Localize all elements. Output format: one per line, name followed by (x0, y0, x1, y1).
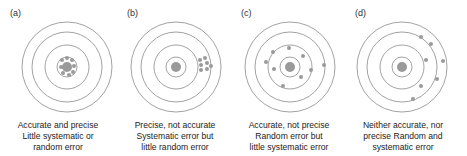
hit-dot (301, 54, 305, 58)
hit-dot (287, 46, 291, 50)
target-b (131, 22, 221, 112)
hit-dot (272, 67, 276, 71)
hit-dot (435, 77, 439, 81)
bullseye (397, 62, 407, 72)
hit-dot (61, 71, 65, 75)
bullseye (62, 62, 72, 72)
hit-dot (209, 64, 213, 68)
hit-dot (199, 68, 203, 72)
hit-dot (411, 97, 415, 101)
target-d (357, 22, 447, 112)
hit-dot (424, 58, 428, 62)
targets-canvas (0, 0, 467, 156)
hit-dot (65, 56, 69, 60)
hit-dot (419, 84, 423, 88)
hit-dot (271, 50, 275, 54)
hit-dot (198, 58, 202, 62)
hit-dot (309, 68, 313, 72)
hit-dot (322, 63, 326, 67)
bullseye (285, 62, 295, 72)
hit-dot (429, 42, 433, 46)
hit-dot (203, 56, 207, 60)
bullseye (171, 62, 181, 72)
hit-dot (67, 73, 71, 77)
target-a (22, 22, 112, 112)
hit-dot (205, 67, 209, 71)
hit-dot (71, 70, 75, 74)
hit-dot (199, 63, 203, 67)
hit-dot (419, 35, 423, 39)
hit-dot (205, 61, 209, 65)
hit-dot (264, 60, 268, 64)
hit-dot (70, 58, 74, 62)
target-c (245, 22, 335, 112)
hit-dot (60, 58, 64, 62)
hit-dot (299, 75, 303, 79)
hit-dot (441, 59, 445, 63)
hit-dot (59, 65, 63, 69)
hit-dot (281, 84, 285, 88)
hit-dot (72, 64, 76, 68)
